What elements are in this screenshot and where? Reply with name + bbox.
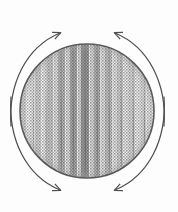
figure-container: A halftone-shaded circle with vertical s… xyxy=(0,0,178,212)
circulation-diagram xyxy=(0,0,178,212)
